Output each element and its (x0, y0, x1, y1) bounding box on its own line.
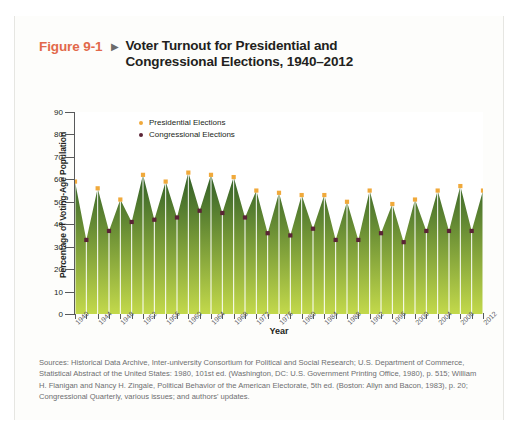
x-tick-label: 2012 (482, 310, 498, 326)
data-point-marker (84, 238, 88, 242)
plot-area: Presidential Elections Congressional Ele… (75, 112, 483, 314)
y-tick (65, 224, 75, 225)
data-point-marker (481, 188, 483, 192)
y-tick-label: 10 (54, 287, 63, 296)
data-point-marker (458, 184, 462, 188)
x-axis-title: Year (75, 326, 483, 336)
data-point-marker (152, 218, 156, 222)
data-point-marker (368, 188, 372, 192)
y-tick-label: 30 (54, 242, 63, 251)
sources-note: Sources: Historical Data Archive, Inter-… (39, 357, 485, 402)
y-tick (65, 112, 75, 113)
y-tick-label: 40 (54, 220, 63, 229)
y-tick-label: 90 (54, 108, 63, 117)
data-point-marker (75, 179, 77, 183)
y-tick-label: 0 (59, 310, 63, 319)
data-point-marker (334, 238, 338, 242)
figure-number-label: Figure 9-1 (39, 38, 103, 54)
data-point-marker (243, 215, 247, 219)
data-point-marker (447, 229, 451, 233)
data-point-marker (107, 229, 111, 233)
data-point-marker (220, 211, 224, 215)
chart-container: Percentage of Voting-Age Population Pres… (39, 104, 491, 344)
data-point-marker (186, 171, 190, 175)
data-point-marker (345, 200, 349, 204)
y-tick-label: 20 (54, 265, 63, 274)
data-point-marker (198, 209, 202, 213)
figure-card: Figure 9-1 ▶ Voter Turnout for President… (14, 16, 504, 420)
y-tick (65, 269, 75, 270)
legend-dot-congressional-icon (139, 133, 143, 137)
data-point-marker (413, 197, 417, 201)
y-tick (65, 247, 75, 248)
legend-item-congressional: Congressional Elections (139, 130, 235, 139)
data-point-marker (470, 229, 474, 233)
legend-item-presidential: Presidential Elections (139, 118, 235, 127)
legend-label-congressional: Congressional Elections (149, 130, 235, 139)
data-point-marker (356, 238, 360, 242)
figure-header: Figure 9-1 ▶ Voter Turnout for President… (39, 38, 479, 70)
y-tick (65, 292, 75, 293)
sources-text: Sources: Historical Data Archive, Inter-… (39, 358, 476, 401)
legend-label-presidential: Presidential Elections (149, 118, 225, 127)
data-point-marker (266, 231, 270, 235)
figure-page: Figure 9-1 ▶ Voter Turnout for President… (0, 0, 518, 437)
y-tick-label: 50 (54, 197, 63, 206)
data-point-marker (390, 202, 394, 206)
data-point-marker (311, 227, 315, 231)
data-point-marker (322, 193, 326, 197)
data-point-marker (209, 173, 213, 177)
triangle-right-icon: ▶ (111, 38, 119, 52)
y-tick (65, 134, 75, 135)
y-tick-label: 70 (54, 152, 63, 161)
y-tick (65, 202, 75, 203)
data-point-marker (379, 231, 383, 235)
chart-legend: Presidential Elections Congressional Ele… (139, 118, 235, 142)
data-point-marker (130, 220, 134, 224)
y-tick (65, 157, 75, 158)
y-tick (65, 314, 75, 315)
area-chart-svg (75, 112, 483, 314)
data-point-marker (175, 215, 179, 219)
data-point-marker (300, 193, 304, 197)
data-point-marker (436, 188, 440, 192)
data-point-marker (277, 191, 281, 195)
legend-dot-presidential-icon (139, 121, 143, 125)
y-tick-label: 80 (54, 130, 63, 139)
y-tick (65, 179, 75, 180)
figure-title: Voter Turnout for Presidential and Congr… (126, 38, 426, 70)
data-point-marker (288, 233, 292, 237)
y-tick-label: 60 (54, 175, 63, 184)
data-point-marker (402, 240, 406, 244)
data-point-marker (141, 173, 145, 177)
data-point-marker (118, 197, 122, 201)
data-point-marker (232, 175, 236, 179)
data-point-marker (254, 188, 258, 192)
data-point-marker (164, 179, 168, 183)
data-point-marker (96, 186, 100, 190)
data-point-marker (424, 229, 428, 233)
